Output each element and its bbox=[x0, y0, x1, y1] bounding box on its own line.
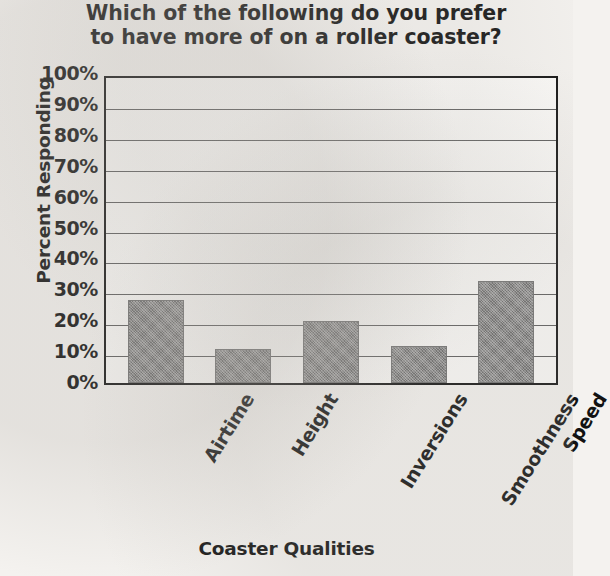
x-axis-title: Coaster Qualities bbox=[0, 538, 573, 559]
bars-layer bbox=[106, 78, 556, 383]
x-axis-tick-label: Height bbox=[287, 389, 343, 460]
plot-area bbox=[104, 76, 558, 385]
y-axis-tick-label: 100% bbox=[41, 62, 98, 84]
bar-speed bbox=[478, 281, 534, 383]
chart-title: Which of the following do you prefer to … bbox=[46, 2, 546, 50]
bar-airtime bbox=[128, 300, 184, 383]
bar-inversions bbox=[303, 321, 359, 383]
y-axis-tick-label: 10% bbox=[54, 340, 98, 362]
bar-slot bbox=[462, 78, 550, 383]
bar-slot bbox=[375, 78, 463, 383]
y-axis-tick-label: 0% bbox=[67, 371, 98, 393]
y-axis-tick-label: 90% bbox=[54, 93, 98, 115]
chart-title-line-1: Which of the following do you prefer bbox=[86, 1, 506, 25]
x-axis-tick-label: Inversions bbox=[396, 389, 472, 492]
bar-slot bbox=[287, 78, 375, 383]
x-axis-tick-label: Airtime bbox=[199, 389, 258, 466]
chart-title-line-2: to have more of on a roller coaster? bbox=[46, 26, 546, 50]
y-axis-tick-label: 60% bbox=[54, 186, 98, 208]
y-axis-tick-label: 80% bbox=[54, 124, 98, 146]
bar-smoothness bbox=[391, 346, 447, 383]
bar-slot bbox=[112, 78, 200, 383]
y-axis-tick-label: 20% bbox=[54, 310, 98, 332]
y-axis-tick-labels: 100%90%80%70%60%50%40%30%20%10%0% bbox=[14, 76, 98, 385]
bar-slot bbox=[200, 78, 288, 383]
x-axis-tick-labels: AirtimeHeightInversionsSmoothnessSpeed bbox=[104, 389, 558, 509]
y-axis-tick-label: 70% bbox=[54, 155, 98, 177]
y-axis-tick-label: 30% bbox=[54, 279, 98, 301]
bar-height bbox=[215, 349, 271, 383]
y-axis-tick-label: 40% bbox=[54, 248, 98, 270]
y-axis-tick-label: 50% bbox=[54, 217, 98, 239]
